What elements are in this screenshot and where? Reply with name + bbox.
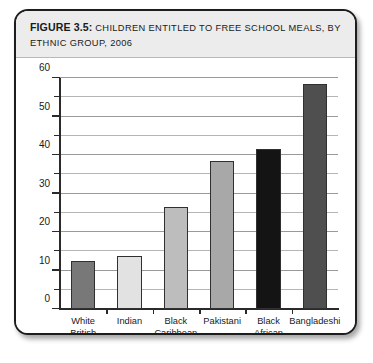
y-axis-tick-minor xyxy=(54,212,60,213)
bar xyxy=(164,207,188,309)
gridline-major xyxy=(60,154,338,155)
y-axis-label: 20 xyxy=(39,216,50,227)
figure-card: FIGURE 3.5: CHILDREN ENTITLED TO FREE SC… xyxy=(14,9,357,335)
x-axis-category-label: Bangladeshi xyxy=(289,316,340,328)
x-axis-tick xyxy=(199,309,201,314)
bar xyxy=(210,161,234,309)
y-axis-label: 10 xyxy=(39,254,50,265)
x-axis-category-label: BlackCaribbean xyxy=(154,316,197,335)
bar xyxy=(303,84,327,309)
y-axis-tick-minor xyxy=(54,173,60,174)
x-axis-tick xyxy=(106,309,108,314)
x-axis-tick xyxy=(245,309,247,314)
gridline-major xyxy=(60,77,338,78)
x-axis-category-label: Pakistani xyxy=(203,316,241,328)
gridline-minor xyxy=(60,212,338,213)
y-axis-label: 40 xyxy=(39,139,50,150)
y-axis-tick-major xyxy=(52,154,60,156)
y-axis-tick-minor xyxy=(54,250,60,251)
y-axis-tick-minor xyxy=(54,96,60,97)
x-axis-category-label: WhiteBritish xyxy=(70,316,96,335)
y-axis-tick-major xyxy=(52,77,60,79)
y-axis-tick-major xyxy=(52,269,60,271)
y-axis-label: 60 xyxy=(39,62,50,73)
chart-axes: 0102030405060 WhiteBritishIndianBlackCar… xyxy=(60,78,338,309)
y-axis-tick-major xyxy=(52,192,60,194)
x-axis-category-label: BlackAfrican xyxy=(254,316,283,335)
y-axis-label: 30 xyxy=(39,177,50,188)
bar xyxy=(71,261,95,309)
y-axis-tick-minor xyxy=(54,289,60,290)
gridline-major xyxy=(60,231,338,232)
chart-plot-region: 0102030405060 WhiteBritishIndianBlackCar… xyxy=(16,58,355,333)
gridline-major xyxy=(60,116,338,117)
bar xyxy=(117,256,141,309)
gridline-minor xyxy=(60,96,338,97)
y-axis-label: 50 xyxy=(39,100,50,111)
x-axis-tick xyxy=(153,309,155,314)
gridline-minor xyxy=(60,173,338,174)
x-axis-category-label: Indian xyxy=(117,316,142,328)
gridline-minor xyxy=(60,250,338,251)
figure-number: FIGURE 3.5: xyxy=(30,21,92,33)
gridline-minor xyxy=(60,289,338,290)
x-axis-tick xyxy=(292,309,294,314)
y-axis-tick-major xyxy=(52,308,60,310)
figure-caption-band: FIGURE 3.5: CHILDREN ENTITLED TO FREE SC… xyxy=(16,11,355,58)
y-axis-tick-major xyxy=(52,115,60,117)
y-axis-tick-minor xyxy=(54,135,60,136)
figure-caption: FIGURE 3.5: CHILDREN ENTITLED TO FREE SC… xyxy=(30,20,341,50)
gridline-minor xyxy=(60,135,338,136)
y-axis-line xyxy=(59,78,61,309)
bar xyxy=(256,149,280,309)
gridline-major xyxy=(60,193,338,194)
y-axis-label: 0 xyxy=(44,293,50,304)
y-axis-tick-major xyxy=(52,231,60,233)
gridline-major xyxy=(60,270,338,271)
